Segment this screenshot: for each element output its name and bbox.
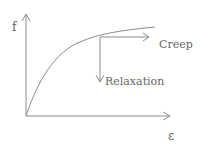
creep-label: Creep [159,38,193,51]
x-axis-label: ε [168,129,174,143]
y-axis-label: f [12,20,18,34]
stress-strain-diagram: f ε Creep Relaxation [0,0,200,150]
y-axis [22,14,30,116]
relaxation-label: Relaxation [105,75,164,88]
stress-strain-curve [26,27,155,116]
creep-arrow [100,33,149,41]
relaxation-arrow [96,37,104,82]
x-axis [26,112,170,120]
